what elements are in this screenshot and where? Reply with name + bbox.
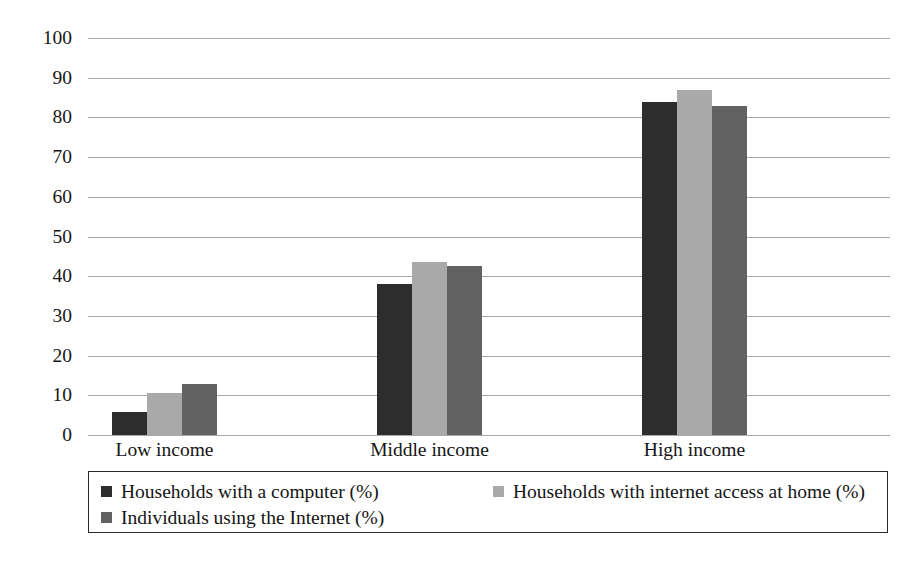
legend-label-1: Households with a computer (%) <box>121 482 379 502</box>
y-tick-label-20: 20 <box>0 346 72 366</box>
gridline-80 <box>88 117 890 118</box>
bar-low-income-series-3 <box>182 384 217 435</box>
chart-legend: Households with a computer (%)Households… <box>88 471 888 533</box>
gridline-60 <box>88 197 890 198</box>
bar-high-income-series-3 <box>712 106 747 435</box>
gridline-50 <box>88 237 890 238</box>
legend-swatch-light-icon <box>493 486 504 497</box>
bar-high-income-series-2 <box>677 90 712 435</box>
bar-low-income-series-1 <box>112 412 147 435</box>
y-tick-label-100: 100 <box>0 28 72 48</box>
gridline-70 <box>88 157 890 158</box>
legend-label-3: Individuals using the Internet (%) <box>121 508 384 528</box>
gridline-0 <box>88 435 890 436</box>
legend-swatch-dark-icon <box>101 486 112 497</box>
bar-low-income-series-2 <box>147 393 182 435</box>
y-tick-label-0: 0 <box>0 425 72 445</box>
legend-entry-2: Households with internet access at home … <box>493 482 865 502</box>
bar-middle-income-series-1 <box>377 284 412 435</box>
legend-swatch-medium-icon <box>101 512 112 523</box>
gridline-30 <box>88 316 890 317</box>
y-tick-label-10: 10 <box>0 386 72 406</box>
gridline-90 <box>88 78 890 79</box>
category-label-high-income: High income <box>644 440 745 460</box>
y-tick-label-50: 50 <box>0 227 72 247</box>
gridline-100 <box>88 38 890 39</box>
y-tick-label-80: 80 <box>0 108 72 128</box>
bar-chart: 1009080706050403020100 Low incomeMiddle … <box>0 0 900 565</box>
category-label-low-income: Low income <box>115 440 213 460</box>
category-label-middle-income: Middle income <box>370 440 489 460</box>
bar-middle-income-series-3 <box>447 266 482 435</box>
plot-area <box>88 38 890 435</box>
y-tick-label-30: 30 <box>0 306 72 326</box>
gridline-20 <box>88 356 890 357</box>
legend-entry-1: Households with a computer (%) <box>101 482 379 502</box>
bar-high-income-series-1 <box>642 102 677 435</box>
y-tick-label-40: 40 <box>0 266 72 286</box>
y-tick-label-70: 70 <box>0 147 72 167</box>
y-tick-label-60: 60 <box>0 187 72 207</box>
y-tick-label-90: 90 <box>0 68 72 88</box>
gridline-40 <box>88 276 890 277</box>
legend-label-2: Households with internet access at home … <box>513 482 865 502</box>
legend-entry-3: Individuals using the Internet (%) <box>101 508 384 528</box>
bar-middle-income-series-2 <box>412 262 447 435</box>
